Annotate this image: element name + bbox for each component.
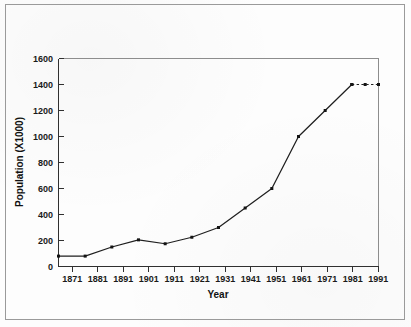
x-tick-label: 1921 xyxy=(190,274,210,284)
y-axis-tick-labels: 0 200 400 600 800 1000 1200 1400 1600 xyxy=(33,54,53,272)
x-axis-title: Year xyxy=(207,289,228,300)
x-tick-label: 1961 xyxy=(292,274,312,284)
x-tick-label: 1941 xyxy=(241,274,261,284)
data-point-marker xyxy=(377,83,380,86)
y-tick-label: 200 xyxy=(38,236,53,246)
data-point-marker xyxy=(137,238,140,241)
x-tick-label: 1971 xyxy=(317,274,337,284)
x-tick-label: 1891 xyxy=(113,274,133,284)
data-point-marker xyxy=(350,83,353,86)
y-tick-label: 400 xyxy=(38,210,53,220)
data-point-marker xyxy=(110,246,113,249)
x-tick-label: 1881 xyxy=(88,274,108,284)
y-tick-label: 1400 xyxy=(33,80,53,90)
data-point-marker xyxy=(190,236,193,239)
data-point-marker xyxy=(164,242,167,245)
y-axis-ticks xyxy=(59,59,64,267)
x-axis-tick-labels: 1871 1881 1891 1901 1911 1921 1931 1941 … xyxy=(62,274,388,284)
data-point-marker xyxy=(217,226,220,229)
x-tick-label: 1981 xyxy=(343,274,363,284)
data-series-layer xyxy=(57,83,380,258)
plot-axes xyxy=(59,59,379,267)
data-point-marker xyxy=(324,109,327,112)
y-tick-label: 600 xyxy=(38,184,53,194)
data-point-marker xyxy=(244,207,247,210)
chart-figure: 0 200 400 600 800 1000 1200 1400 1600 xyxy=(0,0,411,327)
data-point-marker xyxy=(270,187,273,190)
x-tick-label: 1871 xyxy=(62,274,82,284)
data-point-marker xyxy=(57,255,60,258)
x-tick-label: 1931 xyxy=(215,274,235,284)
x-tick-label: 1991 xyxy=(368,274,388,284)
y-tick-label: 0 xyxy=(48,262,53,272)
x-tick-label: 1901 xyxy=(139,274,159,284)
line-chart-canvas: 0 200 400 600 800 1000 1200 1400 1600 xyxy=(0,0,411,327)
series-line xyxy=(59,85,352,257)
y-tick-label: 800 xyxy=(38,158,53,168)
y-axis-title: Population (X1000) xyxy=(14,117,25,207)
y-tick-label: 1600 xyxy=(33,54,53,64)
x-tick-label: 1951 xyxy=(266,274,286,284)
x-tick-label: 1911 xyxy=(164,274,184,284)
x-axis-ticks xyxy=(72,267,378,272)
data-point-marker xyxy=(84,255,87,258)
data-point-marker xyxy=(364,83,367,86)
data-point-marker xyxy=(297,135,300,138)
y-tick-label: 1200 xyxy=(33,106,53,116)
y-tick-label: 1000 xyxy=(33,132,53,142)
